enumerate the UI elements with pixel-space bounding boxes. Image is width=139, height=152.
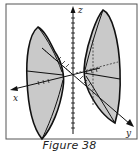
y-axis-label: y [125,128,132,138]
x-axis-label: x [13,93,18,103]
figure-caption: Figure 38 [0,139,139,152]
figure-diagram: z x y [0,0,139,152]
z-axis-label: z [77,5,83,15]
